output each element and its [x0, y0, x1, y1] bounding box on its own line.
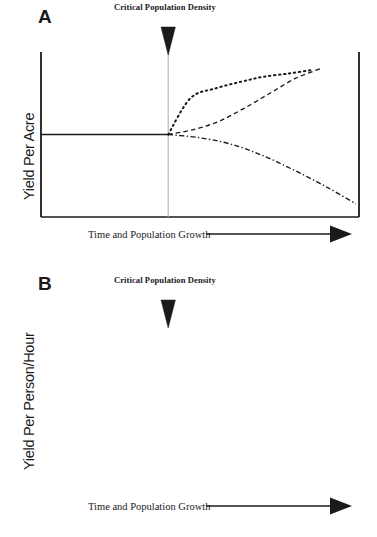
series-line [168, 70, 311, 134]
panel-a: A Critical Population Density Yield Per … [0, 0, 377, 262]
panel-a-plot-area [0, 0, 377, 262]
panel-b-plot-area [0, 265, 377, 537]
critical-density-arrow-icon [161, 300, 175, 328]
x-axis-direction-arrow-icon [206, 226, 352, 243]
panel-b: B Critical Population Density Yield Per … [0, 265, 377, 537]
x-axis-direction-arrow-icon [206, 498, 352, 515]
critical-density-arrow-icon [161, 27, 175, 55]
series-line [168, 135, 356, 204]
figure-container: A Critical Population Density Yield Per … [0, 0, 377, 537]
series-line [168, 69, 321, 135]
